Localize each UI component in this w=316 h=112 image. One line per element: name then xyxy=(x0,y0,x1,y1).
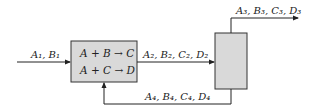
feed-stream: A₁, B₁ xyxy=(17,49,70,62)
reactor: A + B → C A + C → D xyxy=(71,41,137,82)
separator-box xyxy=(215,33,247,89)
recycle-stream: A₄, B₄, C₄, D₄ xyxy=(104,83,231,104)
reaction-2: A + C → D xyxy=(79,64,136,76)
product-stream: A₃, B₃, C₃, D₃ xyxy=(231,5,301,33)
reactor-outlet-stream: A₂, B₂, C₂, D₂ xyxy=(137,49,214,62)
process-flow-diagram: A₁, B₁ A + B → C A + C → D A₂, B₂, C₂, D… xyxy=(0,0,316,112)
reaction-1: A + B → C xyxy=(79,47,134,59)
product-label: A₃, B₃, C₃, D₃ xyxy=(235,5,301,16)
recycle-label: A₄, B₄, C₄, D₄ xyxy=(144,91,210,102)
feed-label: A₁, B₁ xyxy=(30,49,60,60)
product-arrow-icon xyxy=(231,18,298,33)
reactor-outlet-label: A₂, B₂, C₂, D₂ xyxy=(142,49,208,60)
